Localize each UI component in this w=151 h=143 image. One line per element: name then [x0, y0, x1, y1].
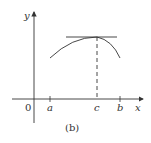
tick-label-a: a [47, 102, 53, 113]
tick-label-c: c [94, 102, 100, 113]
caption: (b) [65, 122, 79, 133]
origin-label: 0 [25, 102, 31, 113]
y-axis-label: y [23, 10, 30, 21]
diagram: y x 0 a c b (b) [0, 0, 151, 143]
x-axis-label: x [135, 102, 141, 113]
curve [50, 37, 120, 58]
tick-label-b: b [117, 102, 123, 113]
